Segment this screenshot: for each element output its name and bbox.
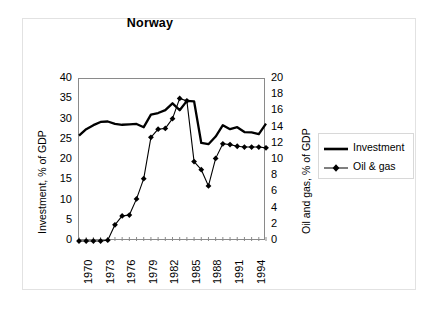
x-axis-tick-label: 1970 [82,260,94,284]
y-axis-left-tick-label: 40 [50,71,72,83]
series-marker [134,196,140,202]
y-axis-right-tick-labels: 02468101214161820 [271,78,293,240]
y-axis-right-tick-label: 8 [271,168,293,180]
x-axis-tick-label: 1991 [233,260,245,284]
legend-key-oil-gas-line-diamond [323,160,349,172]
y-axis-left-tick-label: 20 [50,152,72,164]
x-axis-tick-label: 1988 [211,260,223,284]
y-axis-right-tick-label: 20 [271,71,293,83]
legend-item-investment: Investment [323,139,404,155]
chart-legend: Investment Oil & gas [318,133,414,179]
y-axis-right-tick-label: 14 [271,120,293,132]
series-marker [141,176,147,182]
series-marker [177,96,183,102]
x-axis-tick-label: 1994 [255,260,267,284]
x-axis-tick-label: 1979 [147,260,159,284]
legend-label-investment: Investment [353,141,404,153]
y-axis-right-title: Oil and gas, % of GDP [300,128,312,234]
series-marker [126,212,132,218]
y-axis-left-tick-label: 5 [50,213,72,225]
series-marker [256,144,262,150]
y-axis-left-tick-labels: 0510152025303540 [50,78,72,240]
x-axis-tick-label: 1985 [190,260,202,284]
x-axis-tick-label: 1976 [125,260,137,284]
series-marker [234,143,240,149]
plot-area [78,78,265,240]
x-axis-tick-labels: 197019731976197919821985198819911994 [78,244,265,290]
y-axis-left-tick-label: 15 [50,172,72,184]
x-axis-tick-label: 1973 [104,260,116,284]
series-marker [242,144,248,150]
y-axis-right-tick-label: 16 [271,103,293,115]
y-axis-left-tick-label: 25 [50,132,72,144]
series-marker [213,155,219,161]
y-axis-left-tick-label: 10 [50,193,72,205]
y-axis-right-tick-label: 0 [271,233,293,245]
y-axis-right-tick-label: 2 [271,217,293,229]
y-axis-left-tick-label: 30 [50,112,72,124]
legend-key-investment-line [323,141,349,153]
legend-label-oil-gas: Oil & gas [353,160,396,172]
y-axis-right-tick-label: 4 [271,201,293,213]
series-line-investment [79,101,266,144]
series-marker [249,144,255,150]
series-marker [227,142,233,148]
legend-item-oil-gas: Oil & gas [323,158,396,174]
y-axis-left-tick-label: 0 [50,233,72,245]
chart-figure: Norway Investment, % of GDP Oil and gas,… [0,0,439,312]
series-marker [206,183,212,189]
y-axis-right-tick-label: 10 [271,152,293,164]
y-axis-right-tick-label: 12 [271,136,293,148]
y-axis-right-tick-label: 18 [271,87,293,99]
x-axis-tick-label: 1982 [168,260,180,284]
data-series-layer [79,79,266,241]
y-axis-right-tick-label: 6 [271,184,293,196]
y-axis-left-title: Investment, % of GDP [36,130,48,234]
series-marker [220,141,226,147]
y-axis-left-tick-label: 35 [50,91,72,103]
chart-title: Norway [0,16,300,30]
